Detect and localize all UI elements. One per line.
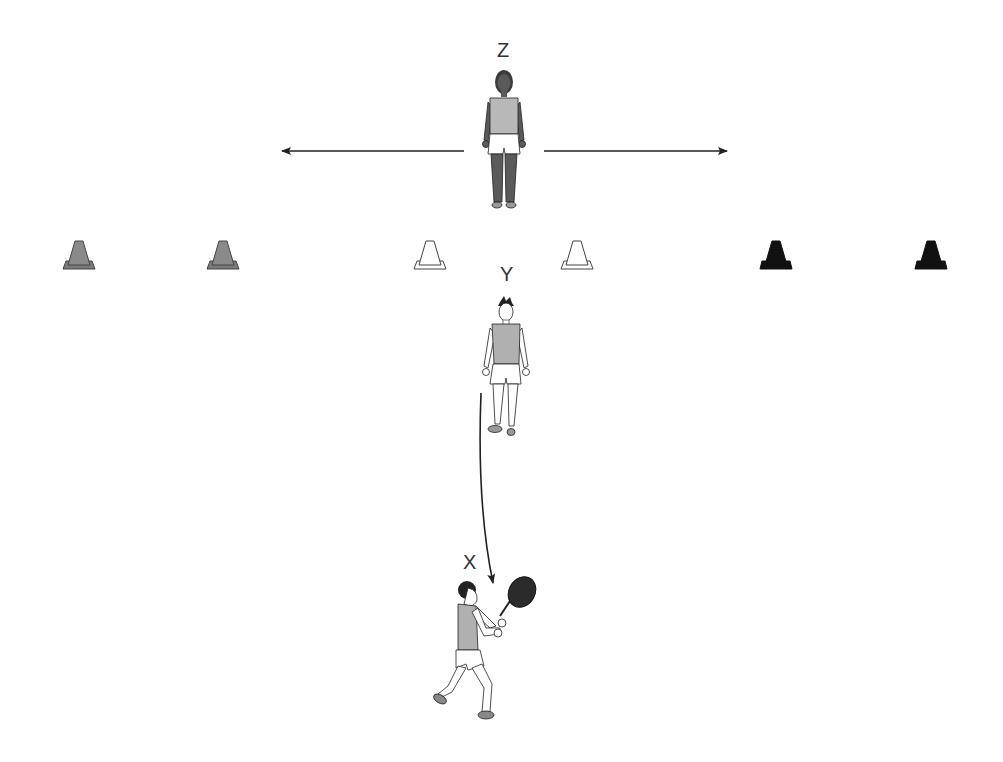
label-y: Y bbox=[500, 264, 513, 284]
cone-white-1 bbox=[413, 238, 447, 270]
cone-gray-2 bbox=[206, 238, 240, 270]
player-z bbox=[474, 68, 534, 213]
drill-diagram: Z Y X bbox=[0, 0, 1003, 762]
player-y bbox=[478, 296, 534, 441]
cone-black-1 bbox=[759, 238, 793, 270]
label-z: Z bbox=[497, 40, 509, 60]
cone-white-2 bbox=[560, 238, 594, 270]
player-x bbox=[430, 576, 542, 721]
label-x: X bbox=[463, 552, 476, 572]
racket-icon bbox=[500, 576, 541, 616]
cone-gray-1 bbox=[62, 238, 96, 270]
cone-black-2 bbox=[914, 238, 948, 270]
